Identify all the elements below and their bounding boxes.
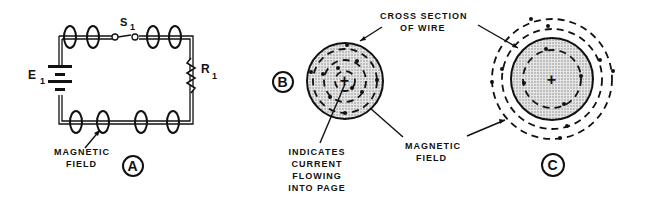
current-into-page-symbol-c: + <box>547 71 557 88</box>
current-into-page-symbol-b: + <box>340 72 350 89</box>
magnetic-field-label-b-2: FIELD <box>416 153 447 163</box>
current-label-4: INTO PAGE <box>288 183 346 193</box>
current-label-2: CURRENT <box>292 159 343 169</box>
cross-section-label-1: CROSS SECTION <box>380 11 468 21</box>
battery-icon <box>48 65 72 91</box>
battery-subscript: 1 <box>40 76 46 86</box>
resistor-subscript: 1 <box>212 71 218 81</box>
field-loops-bottom <box>70 111 179 133</box>
switch-icon <box>112 34 138 40</box>
panel-a-circuit: E 1 S 1 R 1 MAGNETIC FIELD A <box>28 16 218 176</box>
switch-label: S <box>120 16 128 28</box>
magnetic-field-label-b-1: MAGNETIC <box>405 141 461 151</box>
badge-a-label: A <box>127 158 138 174</box>
panel-c-cross-section: + C <box>467 17 615 176</box>
badge-b-label: B <box>277 74 288 90</box>
magnetic-field-label-a-2: FIELD <box>66 159 97 169</box>
field-loops-top <box>64 26 181 48</box>
diagram-canvas: E 1 S 1 R 1 MAGNETIC FIELD A + B <box>0 0 645 203</box>
battery-label: E <box>28 68 37 82</box>
current-label-3: FLOWING <box>292 171 342 181</box>
badge-c-label: C <box>547 157 558 173</box>
panel-b-cross-section: + B CROSS SECTION OF WIRE INDICATES CURR… <box>273 11 468 193</box>
cross-section-label-2: OF WIRE <box>400 23 446 33</box>
switch-subscript: 1 <box>130 22 136 32</box>
resistor-label: R <box>201 62 211 76</box>
resistor-icon <box>187 58 195 93</box>
current-label-1: INDICATES <box>289 147 346 157</box>
magnetic-field-label-a-1: MAGNETIC <box>54 147 110 157</box>
